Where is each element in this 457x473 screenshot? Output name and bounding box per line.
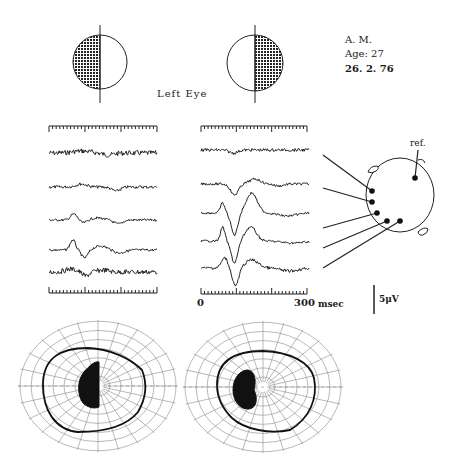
- electrode-1: [369, 188, 375, 194]
- electrode-2: [369, 199, 375, 205]
- stimulus-right-hemifield: [227, 25, 283, 103]
- subject-initials: A. M.: [345, 34, 372, 45]
- amplitude-scale-label: 5μV: [379, 294, 399, 304]
- electrode-3: [374, 210, 380, 216]
- reference-electrode: [412, 175, 418, 181]
- electrode-5: [397, 218, 403, 224]
- time-start-label: 0: [197, 297, 204, 308]
- time-unit-label: msec: [318, 299, 344, 309]
- ear-icon: [368, 166, 378, 173]
- vep-traces-right: [201, 149, 309, 286]
- perimetry-chart-left: [18, 320, 178, 452]
- eye-label: Left Eye: [157, 88, 207, 99]
- recording-date: 26. 2. 76: [345, 63, 394, 74]
- electrode-4: [384, 218, 390, 224]
- electrode-leads: [323, 155, 400, 268]
- stimulus-left-hemifield: [73, 25, 127, 103]
- time-end-label: 300: [294, 297, 315, 308]
- subject-age: Age: 27: [345, 48, 384, 59]
- perimetry-chart-right: [183, 321, 343, 453]
- head-diagram: [366, 150, 434, 235]
- reference-label: ref.: [410, 138, 426, 148]
- vep-traces-left: [49, 149, 157, 277]
- ear-icon: [418, 228, 428, 235]
